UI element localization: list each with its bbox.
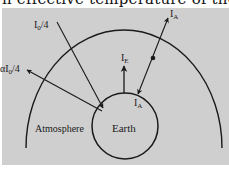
label-atmosphere-up: IA [170, 8, 178, 21]
label-earth-emission: IE [121, 52, 129, 65]
energy-balance-diagram: I0/4 αI0/4 IE IA IA Atmosphere Earth [0, 0, 229, 170]
label-incoming-solar: I0/4 [34, 19, 49, 32]
label-atmosphere: Atmosphere [35, 123, 84, 134]
emission-point-dot [151, 56, 156, 61]
label-earth: Earth [112, 122, 136, 134]
label-reflected: αI0/4 [0, 63, 20, 76]
label-atmosphere-down: IA [134, 97, 142, 110]
